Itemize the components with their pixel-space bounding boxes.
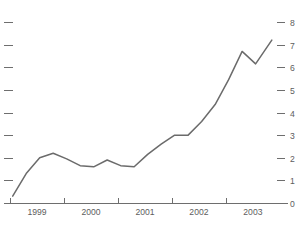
data-series-line xyxy=(13,40,272,196)
y-tick-label: 6 xyxy=(290,63,295,73)
x-tick-label: 2002 xyxy=(189,207,208,217)
y-tick-label: 7 xyxy=(290,41,295,51)
y-tick-label: 5 xyxy=(290,86,295,96)
y-axis-labels: 012345678 xyxy=(290,18,295,209)
x-axis-labels: 19992000200120022003 xyxy=(27,207,262,217)
y-axis-left-tickmarks xyxy=(4,23,13,204)
x-tick-label: 1999 xyxy=(27,207,46,217)
line-chart: 012345678 19992000200120022003 xyxy=(0,0,305,233)
x-tick-label: 2001 xyxy=(135,207,154,217)
y-tick-label: 3 xyxy=(290,131,295,141)
y-tick-label: 0 xyxy=(290,199,295,209)
y-axis-right-tickmarks xyxy=(277,23,285,204)
x-tick-label: 2000 xyxy=(81,207,100,217)
y-tick-label: 1 xyxy=(290,176,295,186)
y-tick-label: 2 xyxy=(290,154,295,164)
x-axis-tickmarks xyxy=(11,198,227,203)
x-tick-label: 2003 xyxy=(243,207,262,217)
chart-plot-area: 012345678 19992000200120022003 xyxy=(0,0,305,233)
y-tick-label: 8 xyxy=(290,18,295,28)
y-tick-label: 4 xyxy=(290,109,295,119)
